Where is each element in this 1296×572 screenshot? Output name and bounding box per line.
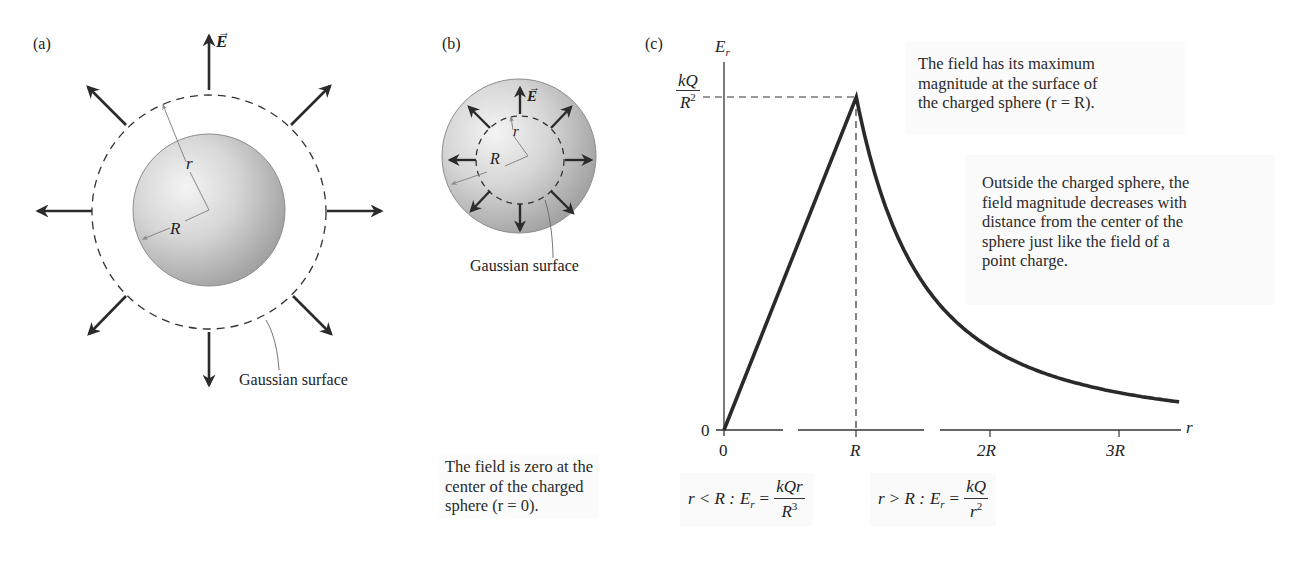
x-ticks — [856, 430, 1119, 437]
x-tick-0: 0 — [719, 442, 728, 459]
x-axis-label: r — [1186, 419, 1193, 436]
radius-r-label-b: r — [513, 124, 519, 139]
field-vector-label-b: →E — [527, 89, 537, 104]
equation-outside: r > R : Er = kQr2 — [870, 473, 996, 526]
gaussian-surface-label-a: Gaussian surface — [239, 372, 348, 388]
gaussian-surface-label-b: Gaussian surface — [470, 258, 579, 274]
panel-b — [442, 79, 596, 258]
x-tick-2R: 2R — [977, 442, 996, 459]
panel-a-label: (a) — [33, 36, 51, 52]
y-max-label: kQR2 — [676, 72, 700, 111]
panel-a — [38, 36, 381, 385]
x-tick-R: R — [850, 442, 860, 459]
radius-r-label-a: r — [186, 155, 193, 172]
x-tick-3R: 3R — [1106, 442, 1125, 459]
radius-R-label-b: R — [490, 151, 500, 167]
field-vector-label-a: →E — [216, 33, 227, 50]
note-outside-sphere: Outside the charged sphere, the field ma… — [976, 171, 1195, 273]
y-zero-label: 0 — [701, 422, 710, 439]
note-zero-at-center: The field is zero at the center of the c… — [439, 455, 599, 518]
radius-R-label-a: R — [170, 220, 180, 237]
surface-leader-line — [266, 320, 279, 370]
y-axis-label: Er — [715, 38, 730, 58]
equation-inside: r < R : Er = kQrR3 — [680, 473, 813, 526]
panel-c-label: (c) — [645, 36, 663, 52]
note-maximum-at-surface: The field has its maximum magnitude at t… — [912, 52, 1104, 115]
panel-b-label: (b) — [442, 36, 461, 52]
